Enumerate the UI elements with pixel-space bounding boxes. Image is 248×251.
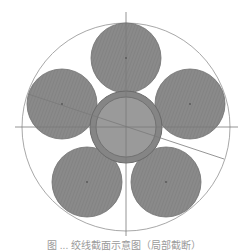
center-dot <box>189 103 191 105</box>
center-dot <box>61 103 63 105</box>
center-dot <box>86 181 88 183</box>
center-dot <box>165 181 167 183</box>
cable-cross-section-diagram <box>0 0 248 251</box>
center-dot <box>125 57 127 59</box>
figure-caption: 图 ... 绞线截面示意图（局部截断） <box>0 240 248 251</box>
